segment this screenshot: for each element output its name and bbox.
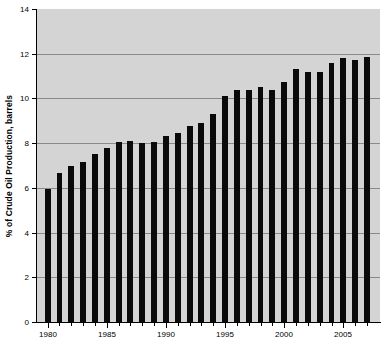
y-tick-mark-0 bbox=[32, 322, 36, 323]
bar-1982 bbox=[68, 166, 74, 323]
x-tick-mark-1997 bbox=[249, 323, 250, 326]
bar-1996 bbox=[234, 90, 240, 323]
bar-1984 bbox=[92, 154, 98, 322]
x-tick-mark-1998 bbox=[261, 323, 262, 326]
x-tick-mark-1999 bbox=[272, 323, 273, 326]
bar-1981 bbox=[57, 173, 63, 322]
x-tick-mark-2002 bbox=[308, 323, 309, 326]
bar-1986 bbox=[116, 142, 122, 322]
x-tick-mark-1983 bbox=[83, 323, 84, 326]
bar-2006 bbox=[352, 60, 358, 322]
x-tick-label-2000: 2000 bbox=[275, 330, 293, 339]
x-tick-mark-1986 bbox=[119, 323, 120, 326]
x-tick-mark-1994 bbox=[213, 323, 214, 326]
x-tick-label-1995: 1995 bbox=[216, 330, 234, 339]
y-tick-label-8: 8 bbox=[25, 139, 29, 148]
bar-2007 bbox=[364, 57, 370, 322]
x-axis-line bbox=[36, 322, 381, 323]
x-tick-mark-2007 bbox=[367, 323, 368, 326]
bar-1987 bbox=[127, 141, 133, 322]
x-tick-mark-2006 bbox=[355, 323, 356, 326]
bar-2004 bbox=[329, 63, 335, 322]
x-tick-mark-1995 bbox=[225, 323, 226, 328]
bar-2003 bbox=[317, 72, 323, 322]
bar-1993 bbox=[198, 123, 204, 322]
y-tick-mark-12 bbox=[32, 54, 36, 55]
x-tick-mark-1988 bbox=[142, 323, 143, 326]
bar-2000 bbox=[281, 82, 287, 322]
bar-1983 bbox=[80, 162, 86, 322]
x-tick-mark-2004 bbox=[332, 323, 333, 326]
y-tick-label-2: 2 bbox=[25, 273, 29, 282]
bar-1992 bbox=[187, 126, 193, 322]
y-tick-mark-8 bbox=[32, 143, 36, 144]
x-tick-mark-1987 bbox=[130, 323, 131, 326]
x-tick-mark-1989 bbox=[154, 323, 155, 326]
x-tick-mark-1992 bbox=[190, 323, 191, 326]
bar-1985 bbox=[104, 148, 110, 322]
y-tick-mark-4 bbox=[32, 233, 36, 234]
x-tick-mark-2003 bbox=[320, 323, 321, 326]
x-tick-label-1990: 1990 bbox=[157, 330, 175, 339]
y-tick-label-14: 14 bbox=[20, 5, 29, 14]
x-tick-mark-1982 bbox=[71, 323, 72, 326]
y-tick-label-4: 4 bbox=[25, 228, 29, 237]
x-tick-mark-2005 bbox=[343, 323, 344, 328]
bar-1991 bbox=[175, 133, 181, 322]
y-tick-label-10: 10 bbox=[20, 94, 29, 103]
y-axis-title-text: % of Crude Oil Production, barrels bbox=[4, 94, 14, 236]
y-tick-label-0: 0 bbox=[25, 318, 29, 327]
x-tick-mark-1981 bbox=[59, 323, 60, 326]
bar-1999 bbox=[269, 90, 275, 323]
x-tick-mark-1990 bbox=[166, 323, 167, 328]
bar-2001 bbox=[293, 69, 299, 322]
x-tick-mark-1993 bbox=[201, 323, 202, 326]
bar-1988 bbox=[139, 143, 145, 322]
bar-2005 bbox=[340, 58, 346, 322]
x-tick-label-1985: 1985 bbox=[98, 330, 116, 339]
plot-area bbox=[37, 9, 380, 322]
y-tick-mark-6 bbox=[32, 188, 36, 189]
bar-1995 bbox=[222, 96, 228, 322]
y-axis-line bbox=[36, 9, 37, 323]
x-tick-mark-1985 bbox=[107, 323, 108, 328]
bar-1998 bbox=[258, 87, 264, 322]
x-tick-mark-1991 bbox=[178, 323, 179, 326]
y-tick-label-6: 6 bbox=[25, 183, 29, 192]
bar-2002 bbox=[305, 72, 311, 322]
x-tick-mark-2001 bbox=[296, 323, 297, 326]
x-tick-mark-2000 bbox=[284, 323, 285, 328]
y-tick-label-12: 12 bbox=[20, 49, 29, 58]
bar-1994 bbox=[210, 114, 216, 322]
bar-chart: % of Crude Oil Production, barrels 02468… bbox=[0, 0, 388, 347]
y-tick-mark-10 bbox=[32, 98, 36, 99]
y-tick-mark-14 bbox=[32, 9, 36, 10]
x-tick-label-1980: 1980 bbox=[39, 330, 57, 339]
bar-1990 bbox=[163, 136, 169, 322]
x-tick-mark-1980 bbox=[48, 323, 49, 328]
bar-1989 bbox=[151, 142, 157, 322]
bar-1997 bbox=[246, 90, 252, 323]
x-tick-mark-1996 bbox=[237, 323, 238, 326]
bar-1980 bbox=[45, 189, 51, 322]
x-tick-mark-1984 bbox=[95, 323, 96, 326]
y-tick-mark-2 bbox=[32, 277, 36, 278]
y-axis-title: % of Crude Oil Production, barrels bbox=[0, 0, 18, 331]
gridline-y-12 bbox=[37, 54, 380, 55]
x-tick-label-2005: 2005 bbox=[334, 330, 352, 339]
